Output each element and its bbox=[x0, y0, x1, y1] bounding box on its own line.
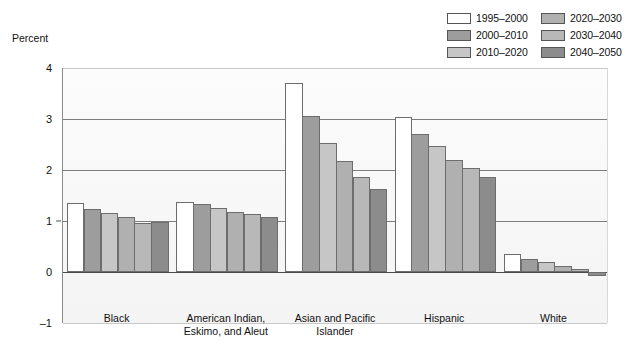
x-axis-category-label-line: Islander bbox=[255, 325, 415, 338]
bar bbox=[193, 204, 210, 272]
y-axis-tick-label: 4 bbox=[6, 62, 52, 74]
plot-area bbox=[62, 68, 608, 323]
bar bbox=[571, 269, 588, 272]
bar bbox=[285, 83, 302, 272]
bar bbox=[353, 177, 370, 272]
bar bbox=[479, 177, 496, 272]
legend-swatch bbox=[447, 13, 471, 24]
legend-item: 2020–2030 bbox=[541, 11, 627, 26]
legend-label: 2040–2050 bbox=[570, 47, 622, 58]
bar bbox=[462, 168, 479, 272]
legend-label: 2000–2010 bbox=[476, 30, 528, 41]
bar bbox=[302, 116, 319, 272]
bar-groups bbox=[63, 68, 607, 323]
bar bbox=[118, 217, 135, 272]
bar bbox=[411, 134, 428, 272]
bar bbox=[588, 272, 605, 276]
bar bbox=[538, 262, 555, 272]
legend-item: 2000–2010 bbox=[447, 28, 533, 43]
legend-label: 2030–2040 bbox=[570, 30, 622, 41]
legend-item: 2010–2020 bbox=[447, 45, 533, 60]
y-axis-title: Percent bbox=[12, 32, 48, 44]
bar bbox=[261, 217, 278, 272]
y-axis-tick-label: 1 bbox=[6, 215, 52, 227]
bar bbox=[370, 189, 387, 272]
bar bbox=[101, 213, 118, 272]
legend-label: 1995–2000 bbox=[476, 13, 528, 24]
chart-root: I/I di Management watch it mmmm mmm Perc… bbox=[0, 0, 634, 347]
legend-swatch bbox=[541, 30, 565, 41]
bar bbox=[336, 161, 353, 272]
y-axis-tick-label: 2 bbox=[6, 164, 52, 176]
bar bbox=[210, 208, 227, 272]
y-axis-tick-label: 3 bbox=[6, 113, 52, 125]
bar bbox=[67, 203, 84, 272]
chart-legend: 1995–20002020–20302000–20102030–20402010… bbox=[447, 11, 627, 60]
legend-swatch bbox=[541, 47, 565, 58]
bar bbox=[554, 266, 571, 272]
legend-item: 2030–2040 bbox=[541, 28, 627, 43]
bar bbox=[445, 160, 462, 272]
legend-swatch bbox=[447, 30, 471, 41]
bar bbox=[227, 212, 244, 272]
x-axis-category-label-line: White bbox=[473, 312, 633, 325]
legend-item: 2040–2050 bbox=[541, 45, 627, 60]
bar bbox=[176, 202, 193, 272]
legend-swatch bbox=[447, 47, 471, 58]
y-axis-tick-label: 0 bbox=[6, 266, 52, 278]
legend-item: 1995–2000 bbox=[447, 11, 533, 26]
bar bbox=[151, 222, 168, 272]
bar bbox=[428, 146, 445, 272]
legend-label: 2010–2020 bbox=[476, 47, 528, 58]
bar bbox=[134, 223, 151, 272]
bar bbox=[319, 143, 336, 272]
bar bbox=[84, 209, 101, 272]
x-axis-category-label: White bbox=[473, 312, 633, 325]
bar bbox=[395, 117, 412, 272]
bar bbox=[244, 214, 261, 272]
bar bbox=[504, 254, 521, 272]
legend-swatch bbox=[541, 13, 565, 24]
legend-label: 2020–2030 bbox=[570, 13, 622, 24]
y-axis-tick-mark bbox=[56, 221, 61, 222]
bar bbox=[521, 259, 538, 272]
